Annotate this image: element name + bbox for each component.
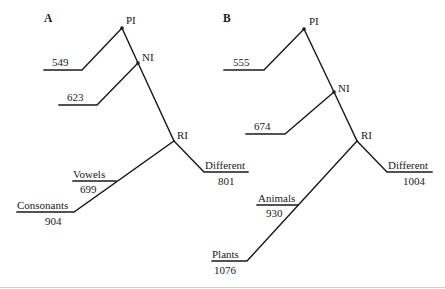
- ni-branch-value-b: 674: [254, 120, 271, 132]
- pi-label-a: PI: [126, 14, 136, 26]
- far-label-b: Plants: [212, 248, 239, 260]
- near-value-a: 699: [80, 183, 97, 195]
- ni-label-b: NI: [338, 82, 350, 94]
- ni-label-a: NI: [142, 51, 154, 63]
- decision-tree-diagram: A PI NI RI 549 623 Different 801 Vowels …: [0, 0, 445, 289]
- panel-b-label: B: [223, 12, 231, 24]
- different-value-b: 1004: [403, 175, 426, 187]
- panel-b: B PI NI RI 555 674 Different 1004 Animal…: [212, 12, 432, 276]
- near-label-b: Animals: [258, 192, 295, 204]
- panel-a-label: A: [44, 12, 53, 24]
- different-value-a: 801: [218, 175, 235, 187]
- bottom-divider: [0, 287, 445, 288]
- ni-branch-value-a: 623: [67, 91, 84, 103]
- pi-branch-value-a: 549: [52, 56, 69, 68]
- far-value-b: 1076: [214, 264, 237, 276]
- near-label-a: Vowels: [73, 168, 105, 180]
- far-value-a: 904: [45, 215, 62, 227]
- ri-label-b: RI: [361, 129, 372, 141]
- ri-label-a: RI: [177, 129, 188, 141]
- main-trunk-a: [122, 28, 174, 141]
- different-label-b: Different: [388, 159, 428, 171]
- near-value-b: 930: [266, 207, 283, 219]
- different-label-a: Different: [205, 159, 245, 171]
- panel-a: A PI NI RI 549 623 Different 801 Vowels …: [17, 12, 248, 227]
- pi-label-b: PI: [309, 15, 319, 27]
- far-label-a: Consonants: [17, 199, 68, 211]
- pi-branch-value-b: 555: [233, 56, 250, 68]
